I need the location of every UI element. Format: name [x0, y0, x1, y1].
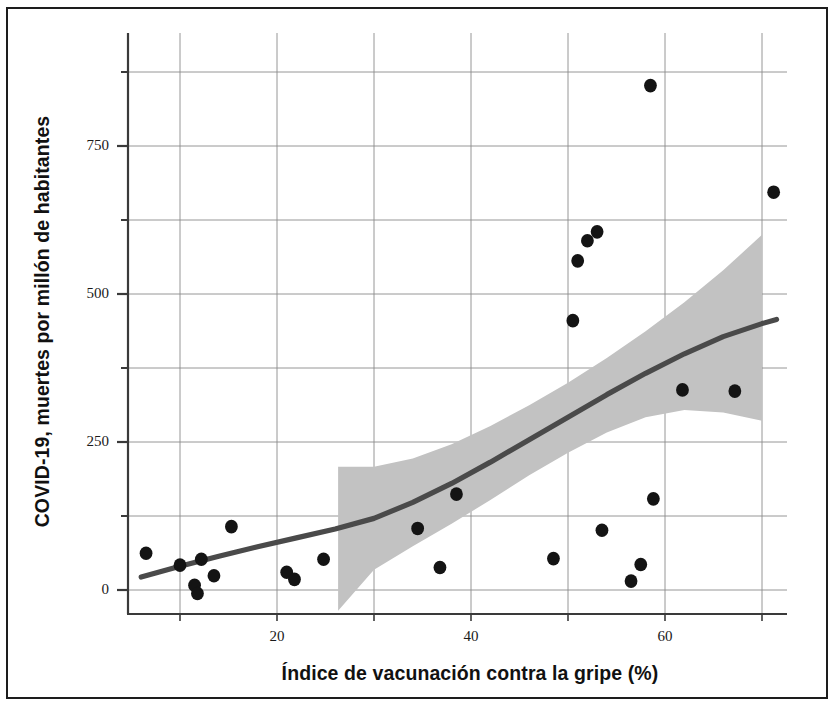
data-point [225, 520, 238, 534]
data-point [644, 79, 657, 93]
data-point [767, 185, 780, 199]
data-point [634, 558, 647, 572]
x-axis-tick-label: 60 [645, 628, 685, 645]
data-point [581, 234, 594, 248]
data-point [317, 552, 330, 566]
y-axis-tick-label: 750 [49, 137, 109, 154]
data-point [174, 558, 187, 572]
y-axis-tick-label: 500 [49, 285, 109, 302]
data-point [195, 552, 208, 566]
scatter-plot [0, 0, 839, 724]
x-axis-tick-label: 40 [451, 628, 491, 645]
y-axis-tick-label: 250 [49, 433, 109, 450]
data-point [571, 254, 584, 268]
y-axis-tick-label: 0 [49, 581, 109, 598]
data-point [140, 546, 153, 560]
data-point [547, 552, 560, 566]
data-point [288, 573, 301, 587]
data-point [411, 522, 424, 536]
data-point [191, 587, 204, 601]
data-point [208, 569, 221, 583]
data-point [591, 225, 604, 239]
data-point [596, 523, 609, 537]
data-point [434, 561, 447, 575]
data-point [728, 384, 741, 398]
figure-container: COVID-19, muertes por millón de habitant… [0, 0, 839, 724]
x-axis-tick-label: 20 [257, 628, 297, 645]
data-point [625, 574, 638, 588]
data-point [676, 383, 689, 397]
data-point [566, 314, 579, 328]
data-point [450, 487, 463, 501]
data-point [647, 492, 660, 506]
x-axis-title: Índice de vacunación contra la gripe (%) [130, 662, 810, 685]
